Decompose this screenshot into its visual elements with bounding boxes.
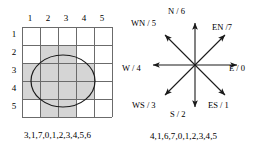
arrow-west-south (165, 65, 195, 95)
grid-row-header-2: 2 (9, 48, 19, 58)
grid-column-header-1: 1 (21, 14, 39, 23)
compass-label-south: S / 2 (170, 110, 186, 119)
compass-label-west-south: WS / 3 (132, 101, 156, 110)
grid-cell-shaded-r3-c4 (76, 63, 94, 81)
compass-label-east: E / 0 (229, 64, 245, 73)
grid-cell-shaded-r4-c3 (58, 81, 76, 99)
grid-cell-shaded-r2-c3 (58, 45, 76, 63)
compass-label-north: N / 6 (168, 7, 185, 16)
arrow-east-south (195, 65, 225, 95)
grid-row-header-4: 4 (9, 84, 19, 94)
grid-cell-shaded-r4-c2 (40, 81, 58, 99)
grid-cell-shaded-r5-c3 (58, 99, 76, 117)
arrow-west-north (165, 35, 195, 65)
compass-label-east-north: EN /7 (212, 23, 232, 32)
compass-chain-code-caption: 4,1,6,7,0,1,2,3,4,5 (150, 132, 217, 141)
grid-cell-shaded-r3-c3 (58, 63, 76, 81)
grid-column-header-5: 5 (93, 14, 111, 23)
compass-label-west-north: WN / 5 (131, 19, 156, 28)
compass-label-east-south: ES / 1 (208, 101, 229, 110)
grid-cell-shaded-r3-c2 (40, 63, 58, 81)
grid-column-header-4: 4 (75, 14, 93, 23)
compass-arrows-group (153, 23, 237, 107)
grid-column-header-2: 2 (39, 14, 57, 23)
grid-column-header-3: 3 (57, 14, 75, 23)
compass-label-west: W / 4 (122, 64, 141, 73)
grid-row-header-5: 5 (9, 102, 19, 112)
grid-row-header-3: 3 (9, 66, 19, 76)
grid-chain-code-caption: 3,1,7,0,1,2,3,4,5,6 (24, 131, 91, 140)
figure-container: 1 2 3 4 5 1 2 3 4 5 (0, 0, 266, 153)
compass-panel: E / 0 ES / 1 S / 2 WS / 3 W / 4 WN / 5 N… (133, 0, 266, 153)
grid-cell-shaded-r4-c4 (76, 81, 94, 99)
grid-panel: 1 2 3 4 5 1 2 3 4 5 (0, 0, 133, 153)
grid-row-header-1: 1 (9, 30, 19, 40)
arrow-east-north (195, 35, 225, 65)
grid-cells-area (21, 26, 113, 118)
